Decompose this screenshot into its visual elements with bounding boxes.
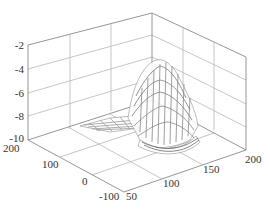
x-tick: 50 — [126, 190, 138, 202]
z-tick: -8 — [15, 110, 25, 122]
y-axis-ticks: 200 100 0 -100 — [3, 142, 120, 202]
x-tick: 150 — [203, 163, 220, 175]
surface-plot: -2 -4 -6 -8 -10 200 100 0 -100 50 100 15… — [0, 0, 270, 211]
y-tick: 0 — [82, 175, 88, 187]
z-tick: -2 — [15, 39, 24, 51]
z-axis-ticks: -2 -4 -6 -8 -10 — [9, 39, 24, 144]
z-tick: -6 — [15, 87, 25, 99]
surface-mesh — [80, 60, 200, 154]
y-tick: -100 — [99, 190, 120, 202]
y-tick: 200 — [3, 142, 20, 154]
y-tick: 100 — [42, 158, 59, 170]
x-tick: 200 — [245, 153, 262, 165]
z-tick: -4 — [15, 63, 25, 75]
x-tick: 100 — [163, 177, 180, 189]
